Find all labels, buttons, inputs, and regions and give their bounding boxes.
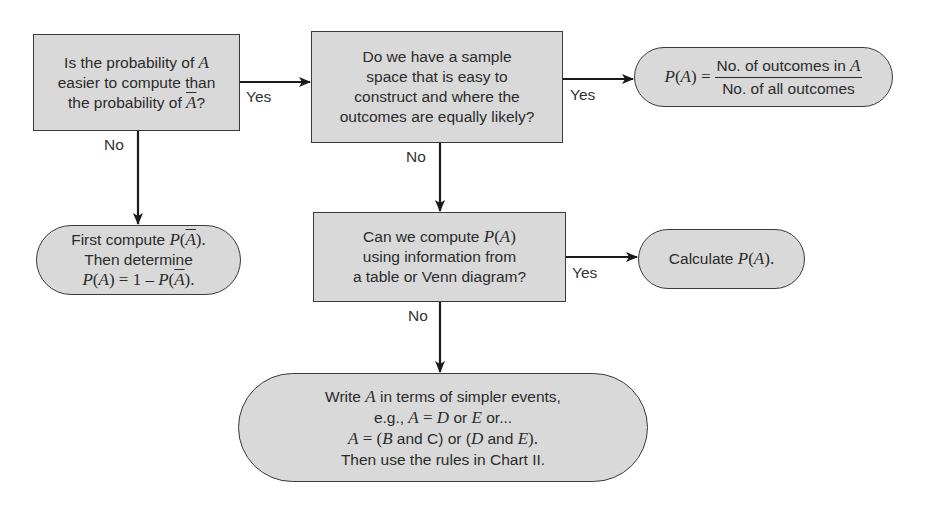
terminal-node-formula: P(A) = No. of outcomes in A No. of all o… <box>634 47 893 107</box>
node-text: or... <box>482 409 512 426</box>
math-var: A <box>99 270 109 289</box>
math-var: A <box>365 387 375 406</box>
edge-label-no: No <box>406 148 426 166</box>
math-op: = ( <box>358 429 382 448</box>
node-text: First compute <box>71 231 169 248</box>
math-var: P <box>484 227 494 246</box>
math-var: A <box>681 67 691 87</box>
edge-label-yes: Yes <box>246 88 271 106</box>
node-text: and C) or ( <box>393 430 471 447</box>
paren: ). <box>196 230 206 249</box>
node-text: space that is easy to <box>340 67 535 87</box>
math-var: A <box>850 56 860 75</box>
edge-label-yes: Yes <box>570 86 595 104</box>
math-var: P <box>665 67 675 87</box>
node-text: Is the probability of <box>64 54 198 71</box>
math-var-complement: A <box>185 230 195 249</box>
node-text: or <box>449 409 471 426</box>
math-var: P <box>82 270 92 289</box>
edge-label-no: No <box>408 307 428 325</box>
node-text: Write <box>325 388 365 405</box>
math-var: P <box>158 270 168 289</box>
numerator: No. of outcomes in <box>717 57 851 74</box>
node-text: ? <box>196 94 205 111</box>
math-var-complement: A <box>174 270 184 289</box>
math-var: B <box>382 429 392 448</box>
math-var: E <box>518 429 528 448</box>
terminal-node-complement: First compute P(A). Then determine P(A) … <box>36 225 241 295</box>
node-text: Do we have a sample <box>340 47 535 67</box>
paren: ). <box>528 429 538 448</box>
edge-label-yes: Yes <box>572 264 597 282</box>
math-var: A <box>199 53 209 72</box>
node-text: Then use the rules in Chart II. <box>325 449 561 470</box>
math-var: A <box>754 249 764 268</box>
math-var: A <box>500 227 510 246</box>
decision-node-q2: Do we have a sample space that is easy t… <box>311 31 563 143</box>
terminal-node-simpler-events: Write A in terms of simpler events, e.g.… <box>238 373 648 482</box>
fraction: No. of outcomes in A No. of all outcomes <box>715 56 863 99</box>
node-text: and <box>483 430 517 447</box>
paren: ). <box>185 270 195 289</box>
edge-label-no: No <box>104 136 124 154</box>
node-text: using information from <box>353 247 526 267</box>
node-text: the probability of <box>68 94 186 111</box>
math-var: D <box>471 429 483 448</box>
math-var-complement: A <box>186 93 196 112</box>
paren: ). <box>764 249 774 268</box>
node-text: Calculate <box>669 250 738 267</box>
equals-sign: = <box>697 67 711 87</box>
math-var: P <box>738 249 748 268</box>
paren: ) <box>510 227 516 246</box>
math-var: D <box>437 408 449 427</box>
denominator: No. of all outcomes <box>722 78 855 99</box>
node-text: outcomes are equally likely? <box>340 107 535 127</box>
node-text: construct and where the <box>340 87 535 107</box>
equals-sign: = <box>419 408 437 427</box>
node-text: easier to compute than <box>58 73 216 93</box>
node-text: a table or Venn diagram? <box>353 267 526 287</box>
node-text: Then determine <box>71 250 206 270</box>
math-var: A <box>348 429 358 448</box>
math-var: P <box>169 230 179 249</box>
node-text: e.g., <box>374 409 408 426</box>
math-op: = 1 – <box>115 270 159 289</box>
math-var: A <box>408 408 418 427</box>
decision-node-q1: Is the probability of A easier to comput… <box>33 34 240 131</box>
decision-node-q3: Can we compute P(A) using information fr… <box>313 212 566 302</box>
math-var: E <box>472 408 482 427</box>
node-text: in terms of simpler events, <box>376 388 561 405</box>
node-text: Can we compute <box>363 228 484 245</box>
terminal-node-calculate: Calculate P(A). <box>638 229 805 289</box>
